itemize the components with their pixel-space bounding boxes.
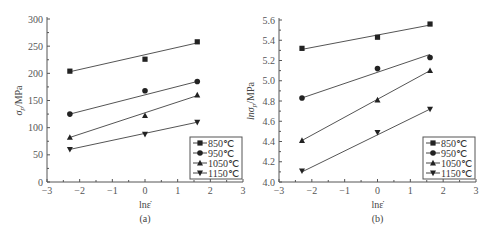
square-marker-icon — [142, 57, 147, 62]
series-850C — [299, 21, 432, 51]
x-tick-label: −2 — [74, 185, 85, 196]
y-tick-label: 4.4 — [263, 136, 276, 147]
x-tick-label: 2 — [441, 185, 446, 196]
series-1050C — [299, 67, 433, 142]
y-tick-label: 5.2 — [263, 55, 276, 66]
y-tick-label: 4.6 — [263, 116, 276, 127]
y-tick-label: 4.0 — [263, 177, 276, 188]
triangle-down-marker-icon — [142, 132, 148, 138]
y-tick-label: 300 — [28, 14, 43, 25]
y-tick-label: 4.8 — [263, 96, 276, 107]
legend-label: 1150℃ — [208, 168, 239, 179]
fit-line — [70, 43, 197, 72]
fit-line — [302, 25, 430, 49]
series-950C — [67, 79, 200, 117]
series-1050C — [67, 92, 200, 140]
square-marker-icon — [195, 39, 200, 44]
fit-line — [70, 81, 197, 114]
y-tick-label: 5.6 — [263, 15, 276, 26]
y-tick-label: 200 — [28, 68, 43, 79]
x-tick-label: 0 — [375, 185, 380, 196]
square-marker-icon — [375, 35, 380, 40]
triangle-down-marker-icon — [67, 147, 73, 153]
chart-a: −3−2−10123050100150200250300850℃950℃1050… — [13, 14, 246, 226]
y-tick-label: 4.2 — [263, 156, 276, 167]
fit-line — [70, 96, 197, 138]
circle-marker-icon — [194, 79, 200, 85]
y-tick-label: 5.4 — [263, 35, 276, 46]
series-1150C — [67, 120, 200, 153]
circle-marker-icon — [375, 66, 381, 72]
fit-line — [302, 54, 430, 98]
y-tick-label: 50 — [33, 149, 43, 160]
triangle-up-marker-icon — [194, 92, 200, 98]
x-tick-label: 3 — [474, 185, 479, 196]
series-1150C — [299, 107, 433, 174]
x-tick-label: −2 — [307, 185, 318, 196]
circle-marker-icon — [299, 95, 305, 101]
x-axis-title: lnε̇ — [372, 199, 385, 210]
x-tick-label: 0 — [143, 185, 148, 196]
y-tick-label: 100 — [28, 122, 43, 133]
y-tick-label: 0 — [38, 177, 43, 188]
legend: 850℃950℃1050℃1150℃ — [190, 137, 242, 179]
x-tick-label: 2 — [208, 185, 213, 196]
x-tick-label: 3 — [241, 185, 246, 196]
square-marker-icon — [427, 21, 432, 26]
y-axis-title: σp/MPa — [13, 85, 26, 116]
x-tick-label: 1 — [175, 185, 180, 196]
legend: 850℃950℃1050℃1150℃ — [423, 137, 475, 179]
triangle-up-marker-icon — [299, 137, 305, 143]
triangle-up-marker-icon — [427, 67, 433, 73]
x-tick-label: −1 — [107, 185, 118, 196]
fit-line — [302, 109, 430, 172]
series-850C — [67, 39, 200, 74]
circle-marker-icon — [430, 150, 436, 156]
legend-label: 1150℃ — [441, 168, 472, 179]
x-tick-label: −3 — [274, 185, 285, 196]
panel-label: (a) — [139, 213, 150, 225]
x-axis-title: lnε̇ — [139, 199, 152, 210]
circle-marker-icon — [197, 150, 203, 156]
triangle-down-marker-icon — [427, 107, 433, 113]
square-marker-icon — [67, 69, 72, 74]
square-marker-icon — [299, 46, 304, 51]
chart-b: −3−2−101234.04.24.44.64.85.05.25.45.6850… — [245, 15, 479, 226]
circle-marker-icon — [67, 111, 73, 117]
y-tick-label: 150 — [28, 95, 43, 106]
fit-line — [70, 122, 197, 149]
x-tick-label: −1 — [339, 185, 350, 196]
square-marker-icon — [197, 140, 202, 145]
square-marker-icon — [430, 140, 435, 145]
y-axis-title: lnσp/MPa — [245, 81, 258, 119]
x-tick-label: −3 — [42, 185, 53, 196]
series-950C — [299, 54, 433, 100]
figure: −3−2−10123050100150200250300850℃950℃1050… — [0, 0, 494, 237]
x-tick-label: 1 — [408, 185, 413, 196]
fit-line — [302, 71, 430, 141]
triangle-down-marker-icon — [375, 130, 381, 136]
circle-marker-icon — [142, 88, 148, 94]
y-tick-label: 250 — [28, 41, 43, 52]
circle-marker-icon — [427, 55, 433, 61]
y-tick-label: 5.0 — [263, 75, 276, 86]
panel-label: (b) — [372, 213, 384, 225]
